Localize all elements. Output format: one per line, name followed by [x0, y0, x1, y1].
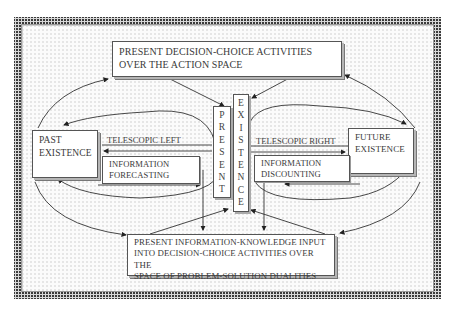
telescopic-left-label: TELESCOPIC LEFT: [107, 135, 181, 145]
existence-letter: E: [238, 159, 244, 171]
present-letter: P: [219, 109, 224, 121]
past-existence-box: PAST EXISTENCE: [32, 130, 98, 178]
existence-letter: I: [239, 122, 242, 134]
present-letter: T: [219, 183, 225, 195]
present-letter: R: [219, 121, 225, 133]
telescopic-right-label: TELESCOPIC RIGHT: [256, 136, 336, 146]
future-existence-box: FUTURE EXISTENCE: [348, 128, 414, 174]
information-forecasting-box: INFORMATION FORECASTING: [102, 156, 200, 184]
existence-letter: T: [238, 147, 244, 159]
existence-letter: E: [238, 97, 244, 109]
existence-letter: N: [238, 171, 245, 183]
existence-letter: X: [238, 109, 245, 121]
existence-vertical-box: E X I S T E N C E: [233, 94, 249, 212]
present-information-knowledge-box: PRESENT INFORMATION-KNOWLEDGE INPUT INTO…: [127, 234, 335, 276]
present-letter: S: [219, 146, 224, 158]
existence-letter: S: [238, 134, 243, 146]
existence-letter: C: [238, 184, 244, 196]
present-decision-choice-box: PRESENT DECISION-CHOICE ACTIVITIES OVER …: [112, 41, 342, 77]
present-letter: E: [219, 134, 225, 146]
present-letter: E: [219, 159, 225, 171]
present-letter: N: [219, 171, 226, 183]
present-vertical-box: P R E S E N T: [213, 106, 231, 198]
existence-letter: E: [238, 196, 244, 208]
information-discounting-box: INFORMATION DISCOUNTING: [254, 155, 350, 182]
